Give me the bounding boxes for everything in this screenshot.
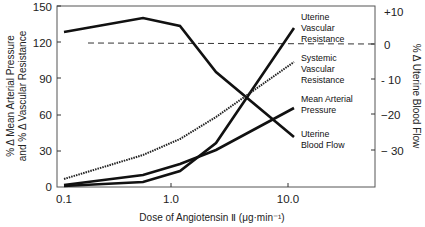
svg-text:Uterine: Uterine (301, 129, 329, 139)
left-axis-title-2: and % Δ Vascular Resistance (17, 30, 28, 161)
right-tick: +10 (384, 6, 404, 18)
right-tick: −20 (381, 109, 401, 121)
svg-text:Blood Flow: Blood Flow (301, 140, 345, 150)
right-tick: 0 (384, 39, 390, 51)
left-tick: 30 (39, 145, 52, 157)
svg-text:Vascular: Vascular (301, 23, 335, 33)
svg-text:Uterine: Uterine (301, 12, 329, 22)
x-axis: 0.1 1.0 10.0 Dose of Angiotensin Ⅱ (μg·m… (56, 183, 299, 223)
left-tick: 0 (46, 181, 52, 193)
label-systemic-vascular-resistance: Systemic Vascular Resistance (301, 53, 345, 85)
svg-text:Resistance: Resistance (301, 75, 345, 85)
left-tick: 60 (39, 109, 52, 121)
left-axis-title-1: % Δ Mean Arterial Pressure (5, 35, 16, 157)
left-axis: 150 120 90 60 30 0 % Δ Mean Arterial Pre… (5, 1, 61, 193)
right-tick: − 30 (381, 145, 404, 157)
chart: 150 120 90 60 30 0 % Δ Mean Arterial Pre… (0, 0, 425, 227)
svg-text:Resistance: Resistance (301, 34, 345, 44)
right-tick: - 10 (381, 74, 401, 86)
svg-text:Mean Arterial: Mean Arterial (301, 94, 353, 104)
x-axis-title: Dose of Angiotensin Ⅱ (μg·min⁻¹) (139, 212, 284, 223)
left-tick: 90 (39, 73, 52, 85)
label-uterine-blood-flow: Uterine Blood Flow (301, 129, 345, 150)
x-tick: 1.0 (163, 193, 179, 205)
series-mean-arterial-pressure (64, 108, 294, 185)
x-tick: 10.0 (277, 193, 299, 205)
svg-text:Systemic: Systemic (301, 53, 337, 63)
label-uterine-vascular-resistance: Uterine Vascular Resistance (301, 12, 345, 44)
right-axis-title: % Δ Uterine Blood Flow (411, 44, 422, 149)
right-axis: +10 0 - 10 −20 − 30 % Δ Uterine Blood Fl… (371, 6, 422, 157)
svg-text:Pressure: Pressure (301, 105, 336, 115)
x-tick: 0.1 (56, 193, 72, 205)
left-tick: 120 (33, 37, 52, 49)
label-mean-arterial-pressure: Mean Arterial Pressure (301, 94, 353, 115)
svg-text:Vascular: Vascular (301, 64, 335, 74)
left-tick: 150 (33, 1, 52, 13)
